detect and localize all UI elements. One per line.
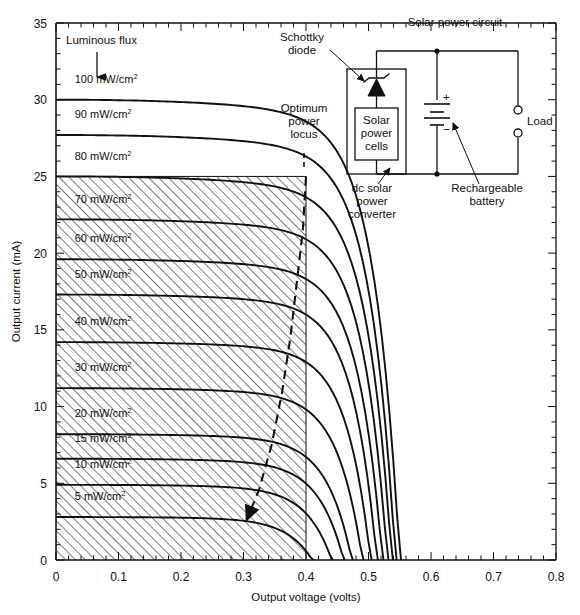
schottky-label-0: Schottky [280, 31, 324, 43]
x-tick-label-0.7: 0.7 [485, 570, 502, 584]
figure-container: 00.10.20.30.40.50.60.70.805101520253035O… [0, 0, 580, 615]
curve-label-152mw: 15 mW/cm2 [75, 430, 132, 444]
dc-converter-label-1: power [356, 195, 387, 207]
x-tick-label-0.3: 0.3 [235, 570, 252, 584]
dc-converter-label-0: dc solar [352, 182, 392, 194]
x-tick-label-0.1: 0.1 [110, 570, 127, 584]
battery-plus-sign: + [443, 91, 450, 103]
load-terminal-bottom [514, 129, 522, 137]
x-tick-label-0: 0 [53, 570, 60, 584]
circuit-title: Solar power circuit [408, 16, 503, 28]
y-tick-label-35: 35 [34, 17, 48, 31]
node-dot-top [434, 48, 439, 53]
x-tick-label-0.8: 0.8 [548, 570, 565, 584]
y-axis-title: Output current (mA) [10, 241, 22, 343]
battery-label-0: Rechargeable [451, 182, 523, 194]
y-tick-label-25: 25 [34, 170, 48, 184]
y-tick-label-0: 0 [40, 554, 47, 568]
optimum-power-locus-label-2: locus [291, 128, 318, 140]
load-label: Load [527, 115, 553, 127]
solar-cells-label-0: Solar [363, 114, 390, 126]
luminous-flux-label: Luminous flux [66, 34, 137, 46]
curve-label-202mw: 20 mW/cm2 [75, 406, 132, 420]
battery-minus-sign: − [443, 123, 450, 135]
load-terminal-top [514, 106, 522, 114]
curve-label-52mw: 5 mW/cm2 [75, 489, 126, 503]
schottky-label-1: diode [288, 44, 316, 56]
curve-label-302mw: 30 mW/cm2 [75, 360, 132, 374]
dc-converter-label-2: converter [348, 208, 396, 220]
x-tick-label-0.5: 0.5 [360, 570, 377, 584]
curve-label-402mw: 40 mW/cm2 [75, 314, 132, 328]
curve-label-502mw: 50 mW/cm2 [75, 266, 132, 280]
y-tick-label-30: 30 [34, 93, 48, 107]
y-tick-label-20: 20 [34, 247, 48, 261]
optimum-power-locus-label-1: power [288, 115, 319, 127]
curve-label-602mw: 60 mW/cm2 [75, 231, 132, 245]
iv-curve-figure: 00.10.20.30.40.50.60.70.805101520253035O… [0, 0, 580, 615]
curve-label-702mw: 70 mW/cm2 [75, 191, 132, 205]
x-tick-label-0.4: 0.4 [298, 570, 315, 584]
y-tick-label-10: 10 [34, 400, 48, 414]
x-axis-title: Output voltage (volts) [251, 591, 360, 603]
x-tick-label-0.2: 0.2 [173, 570, 190, 584]
battery-label-1: battery [469, 195, 504, 207]
curve-label-102mw: 10 mW/cm2 [75, 456, 132, 470]
solar-cells-label-1: power [361, 127, 392, 139]
x-tick-label-0.6: 0.6 [423, 570, 440, 584]
curve-label-902mw: 90 mW/cm2 [75, 107, 132, 121]
node-dot-bottom [434, 171, 439, 176]
y-tick-label-5: 5 [40, 477, 47, 491]
curve-label-802mw: 80 mW/cm2 [75, 148, 132, 162]
curve-label-1002mw: 100 mW/cm2 [75, 71, 138, 85]
optimum-power-locus-label-0: Optimum [281, 102, 328, 114]
solar-cells-label-2: cells [365, 140, 388, 152]
y-tick-label-15: 15 [34, 323, 48, 337]
